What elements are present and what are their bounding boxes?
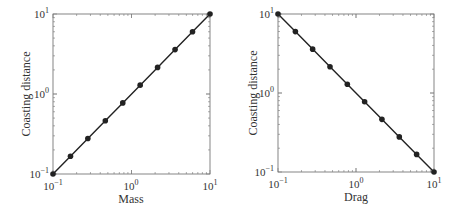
left-xtick-right: 101: [203, 178, 218, 192]
right-series-line: [278, 14, 434, 172]
left-ytick-top: 101: [34, 6, 49, 20]
data-point-marker: [190, 29, 196, 35]
data-point-marker: [155, 65, 161, 71]
right-xtick-left: 10−1: [268, 176, 288, 190]
data-point-marker: [431, 169, 437, 175]
right-panel: 101 100 10−1 10−1 100 101 Drag Coasting …: [246, 6, 442, 204]
data-point-marker: [85, 136, 91, 142]
data-point-marker: [207, 11, 213, 17]
left-xtick-left: 10−1: [43, 178, 63, 192]
right-ytick-top: 101: [259, 6, 274, 20]
chart-canvas: 101 100 10−1 10−1 100 101 Mass Coasting …: [0, 0, 470, 210]
right-xtick-mid: 100: [349, 176, 364, 190]
right-xtick-right: 101: [427, 176, 442, 190]
data-point-marker: [68, 153, 74, 159]
data-point-marker: [120, 100, 126, 106]
data-point-marker: [396, 134, 402, 140]
data-point-marker: [172, 47, 178, 53]
left-ytick-mid: 100: [34, 86, 49, 100]
data-point-marker: [327, 64, 333, 70]
right-ytick-bottom: 10−1: [254, 164, 274, 178]
left-panel: 101 100 10−1 10−1 100 101 Mass Coasting …: [19, 6, 218, 206]
data-point-marker: [362, 99, 368, 105]
data-point-marker: [103, 118, 109, 124]
right-y-axis-label: Coasting distance: [246, 51, 260, 136]
left-xtick-mid: 100: [124, 178, 139, 192]
left-series-line: [53, 14, 210, 174]
data-point-marker: [275, 11, 281, 17]
left-ytick-bottom: 10−1: [29, 166, 49, 180]
data-point-marker: [310, 46, 316, 52]
right-x-axis-label: Drag: [344, 190, 368, 204]
data-point-marker: [345, 81, 351, 87]
right-ytick-mid: 100: [259, 85, 274, 99]
data-point-marker: [50, 171, 56, 177]
data-point-marker: [414, 152, 420, 158]
left-y-axis-label: Coasting distance: [19, 52, 33, 137]
left-x-axis-label: Mass: [118, 192, 144, 206]
data-point-marker: [137, 82, 143, 88]
data-point-marker: [293, 29, 299, 35]
data-point-marker: [379, 117, 385, 123]
